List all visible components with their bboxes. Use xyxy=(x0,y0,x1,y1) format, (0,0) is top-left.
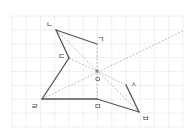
point-labels: ㄱㄴㄷㄹㅁㅂㅅㅇ xyxy=(31,20,149,123)
label-m: ㅁ xyxy=(94,102,101,111)
label-g: ㄱ xyxy=(97,35,104,44)
center-point-o xyxy=(96,70,99,73)
dashed-line xyxy=(42,31,183,99)
edge-m-b xyxy=(97,99,139,112)
label-o: ㅇ xyxy=(94,75,101,84)
label-b: ㅂ xyxy=(142,114,149,123)
label-s: ㅅ xyxy=(130,80,137,89)
auxiliary-dashed-lines xyxy=(42,30,183,112)
label-n: ㄴ xyxy=(46,20,53,29)
symmetry-diagram: ㄱㄴㄷㄹㅁㅂㅅㅇ xyxy=(0,0,196,136)
label-d: ㄷ xyxy=(58,52,65,61)
figure-outline xyxy=(42,30,139,112)
label-r: ㄹ xyxy=(31,102,38,111)
